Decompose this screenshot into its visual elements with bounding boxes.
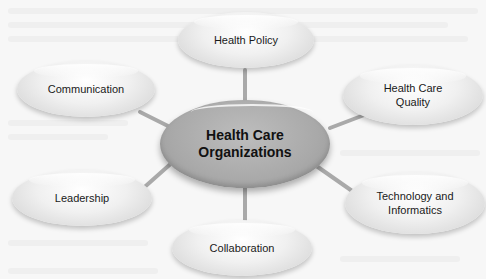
node-label: Health Policy [214,33,278,47]
node-label-line2: Informatics [388,204,442,216]
node-label: Collaboration [210,241,275,255]
node-technology-informatics: Technology andInformatics [345,172,485,234]
node-communication: Communication [17,61,155,117]
node-label-line1: Health Care [384,82,443,94]
center-node: Health CareOrganizations [160,100,330,188]
center-label-line1: Health Care [206,127,284,143]
node-label-line2: Quality [396,96,430,108]
center-label-line2: Organizations [198,144,291,160]
node-label-line1: Technology and [376,190,453,202]
node-label: Communication [48,82,124,96]
node-health-policy: Health Policy [178,12,314,68]
node-collaboration: Collaboration [172,220,312,276]
node-label: Leadership [55,191,109,205]
node-leadership: Leadership [12,170,152,226]
node-health-care-quality: Health CareQuality [343,65,483,125]
